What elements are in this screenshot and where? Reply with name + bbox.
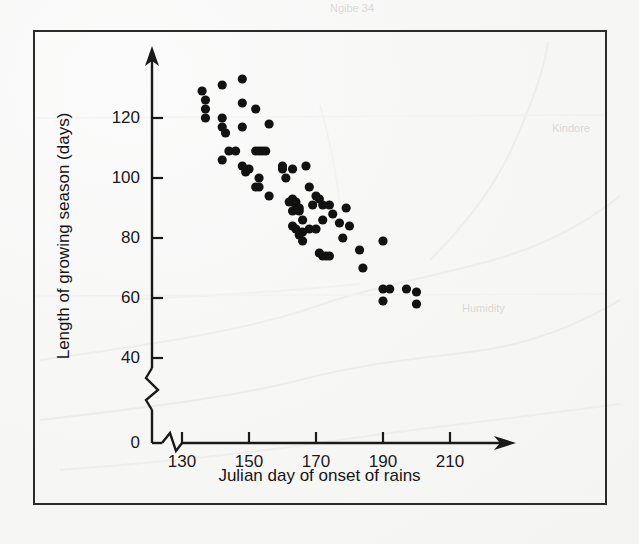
data-point xyxy=(281,173,290,182)
data-point xyxy=(295,206,304,215)
data-point xyxy=(335,218,344,227)
data-point xyxy=(305,182,314,191)
data-point xyxy=(378,296,387,305)
data-point xyxy=(201,113,210,122)
y-tick-label: 120 xyxy=(100,108,140,128)
data-point xyxy=(218,80,227,89)
x-axis xyxy=(152,432,516,451)
data-point xyxy=(218,113,227,122)
data-point xyxy=(342,203,351,212)
data-point xyxy=(412,299,421,308)
data-point xyxy=(238,98,247,107)
data-point xyxy=(345,221,354,230)
data-point xyxy=(254,173,263,182)
data-point xyxy=(198,86,207,95)
data-point xyxy=(238,74,247,83)
y-tick-label: 40 xyxy=(100,348,140,368)
data-point xyxy=(298,215,307,224)
data-point xyxy=(201,104,210,113)
data-point xyxy=(231,146,240,155)
y-axis-title: Length of growing season (days) xyxy=(54,113,74,360)
data-point xyxy=(338,233,347,242)
data-point xyxy=(244,164,253,173)
data-point xyxy=(325,200,334,209)
data-point xyxy=(261,146,270,155)
y-tick-label: 60 xyxy=(100,288,140,308)
y-tick-label: 80 xyxy=(100,228,140,248)
data-point xyxy=(238,122,247,131)
data-point xyxy=(298,236,307,245)
data-point xyxy=(325,251,334,260)
scatter-plot: 120 100 80 60 40 0 130 150 170 190 210 J… xyxy=(0,0,639,544)
data-point xyxy=(308,200,317,209)
y-axis xyxy=(145,46,163,443)
data-points xyxy=(198,74,422,308)
data-point xyxy=(288,164,297,173)
data-point xyxy=(265,119,274,128)
data-point xyxy=(254,182,263,191)
data-point xyxy=(251,104,260,113)
data-point xyxy=(412,287,421,296)
data-point xyxy=(301,161,310,170)
data-point xyxy=(378,236,387,245)
data-point xyxy=(385,284,394,293)
data-point xyxy=(265,191,274,200)
data-point xyxy=(221,128,230,137)
data-point xyxy=(402,284,411,293)
data-point xyxy=(358,263,367,272)
y-tick-label: 100 xyxy=(100,168,140,188)
data-point xyxy=(328,209,337,218)
data-point xyxy=(318,215,327,224)
data-point xyxy=(311,224,320,233)
y-tick-label: 0 xyxy=(100,433,140,453)
data-point xyxy=(278,164,287,173)
data-point xyxy=(201,95,210,104)
x-axis-title: Julian day of onset of rains xyxy=(0,466,639,486)
data-point xyxy=(218,155,227,164)
data-point xyxy=(355,245,364,254)
